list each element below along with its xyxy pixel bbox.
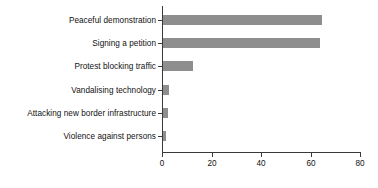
- x-axis-tick-label-80: 80: [348, 159, 372, 169]
- plot-area: [163, 6, 361, 152]
- bar-protest-blocking-traffic: [163, 61, 194, 71]
- x-axis-tick: [360, 153, 361, 157]
- x-axis-tick-label-60: 60: [299, 159, 323, 169]
- x-axis-tick-label-20: 20: [200, 159, 224, 169]
- bar-signing-a-petition: [163, 38, 320, 48]
- category-label-vandalising-technology: Vandalising technology: [71, 86, 156, 96]
- category-label-peaceful-demonstration: Peaceful demonstration: [69, 16, 156, 26]
- category-label-signing-a-petition: Signing a petition: [92, 39, 156, 49]
- category-label-attacking-new-border-infrastructure: Attacking new border infrastructure: [27, 109, 156, 119]
- category-label-violence-against-persons: Violence against persons: [63, 132, 156, 142]
- y-axis-line: [162, 6, 163, 153]
- x-axis-tick-label-40: 40: [249, 159, 273, 169]
- x-axis-tick-label-0: 0: [150, 159, 174, 169]
- x-axis-tick: [261, 153, 262, 157]
- bar-chart: Peaceful demonstration Signing a petitio…: [0, 0, 378, 188]
- x-axis-tick: [212, 153, 213, 157]
- bar-vandalising-technology: [163, 85, 170, 95]
- bar-attacking-new-border-infrastructure: [163, 108, 169, 118]
- category-label-protest-blocking-traffic: Protest blocking traffic: [74, 62, 156, 72]
- bar-peaceful-demonstration: [163, 15, 323, 25]
- x-axis-tick: [311, 153, 312, 157]
- x-axis-tick: [162, 153, 163, 157]
